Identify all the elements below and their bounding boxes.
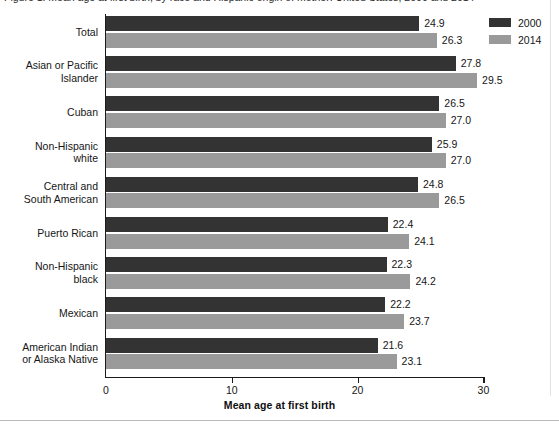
legend-label: 2000 [518,17,541,29]
category-label-line: Non-Hispanic [0,140,98,153]
bar-group: Central andSouth American24.826.5 [0,161,559,201]
chart-legend: 20002014 [489,13,541,47]
legend-swatch-icon [489,18,511,27]
bar-group: Puerto Rican22.424.1 [0,201,559,241]
bar-2000-mexican [106,297,385,312]
x-tick-label: 20 [352,384,364,396]
bar-value-label: 25.9 [437,138,457,150]
category-label-line: Non-Hispanic [0,260,98,273]
category-label: Total [0,26,98,39]
legend-item[interactable]: 2000 [489,13,541,30]
bar-2000-non-hispanic-black [106,257,387,272]
bar-group: Mexican22.223.7 [0,281,559,321]
legend-item[interactable]: 2014 [489,30,541,47]
bar-2000-asian-or-pacific-islander [106,56,456,71]
x-tick-mark [483,377,484,383]
category-label-line: Puerto Rican [0,227,98,240]
legend-swatch-icon [489,35,511,44]
bar-2000-cuban [106,96,439,111]
category-label-line: Asian or Pacific [0,59,98,72]
x-axis-title: Mean age at first birth [0,399,559,411]
page-edge-bottom [0,420,559,421]
x-tick-label: 0 [103,384,109,396]
x-axis-line [106,377,484,378]
bar-group: Non-Hispanicblack22.324.2 [0,241,559,281]
bar-2014-american-indian-or-alaska-native [106,354,397,369]
category-label-line: Mexican [0,307,98,320]
bar-group: American Indianor Alaska Native21.623.1 [0,322,559,362]
category-label-line: Cuban [0,106,98,119]
category-label: Cuban [0,106,98,119]
x-tick-mark [232,377,233,383]
bar-value-label: 22.2 [390,298,410,310]
bar-value-label: 27.8 [461,57,481,69]
bar-group: Non-Hispanicwhite25.927.0 [0,121,559,161]
category-label: Mexican [0,307,98,320]
chart-page: Figure 1. Mean age at first birth, by ra… [0,0,559,426]
bar-group: Asian or PacificIslander27.829.5 [0,40,559,80]
category-label: American Indianor Alaska Native [0,341,98,366]
bar-value-label: 26.5 [444,97,464,109]
bar-value-label: 24.8 [423,178,443,190]
bar-group: Cuban26.527.0 [0,80,559,120]
bar-2000-central-and-south-american [106,177,418,192]
category-label-line: Total [0,26,98,39]
bar-2000-non-hispanic-white [106,137,432,152]
legend-label: 2014 [518,34,541,46]
x-tick-label: 30 [478,384,490,396]
category-label-line: Central and [0,180,98,193]
bar-value-label: 22.3 [392,258,412,270]
bar-value-label: 24.9 [424,17,444,29]
x-tick-mark [358,377,359,383]
category-label: Puerto Rican [0,227,98,240]
bar-value-label: 22.4 [393,218,413,230]
bar-2000-american-indian-or-alaska-native [106,338,378,353]
bar-2000-total [106,16,419,31]
bar-group: Total24.926.3 [0,0,559,40]
page-edge-right [550,0,551,396]
x-tick-label: 10 [226,384,238,396]
category-label-line: or Alaska Native [0,353,98,366]
bar-value-label: 21.6 [383,339,403,351]
bar-2000-puerto-rican [106,217,388,232]
bar-value-label: 23.1 [402,355,422,367]
category-label-line: American Indian [0,341,98,354]
